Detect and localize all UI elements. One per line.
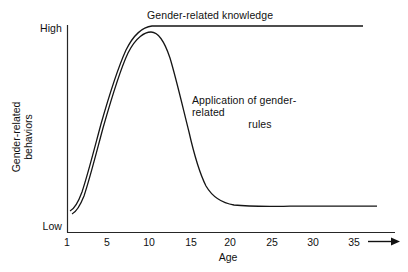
x-tick-label-1: 1 [64, 236, 70, 248]
x-axis-arrow [368, 238, 400, 246]
series-label-rules-line1: Application of gender-related [192, 94, 328, 118]
series-label-rules: Application of gender-related rules [192, 94, 328, 130]
series-label-rules-line2: rules [192, 118, 328, 130]
x-tick-label-30: 30 [307, 236, 319, 248]
series-label-knowledge: Gender-related knowledge [147, 10, 273, 22]
y-axis-low-label: Low [42, 221, 62, 233]
y-axis-high-label: High [40, 23, 62, 35]
chart-figure: High Low Gender-related behaviors 1 5 10… [0, 0, 408, 272]
y-axis-title: Gender-related behaviors [10, 82, 34, 192]
y-axis-title-line1: Gender-related [10, 82, 22, 192]
x-tick-label-15: 15 [185, 236, 197, 248]
x-axis-title: Age [219, 251, 238, 263]
x-tick-label-5: 5 [104, 236, 110, 248]
x-tick-label-10: 10 [143, 236, 155, 248]
x-tick-label-20: 20 [224, 236, 236, 248]
y-axis-title-line2: behaviors [22, 82, 34, 192]
x-tick-label-25: 25 [266, 236, 278, 248]
x-tick-label-35: 35 [348, 236, 360, 248]
